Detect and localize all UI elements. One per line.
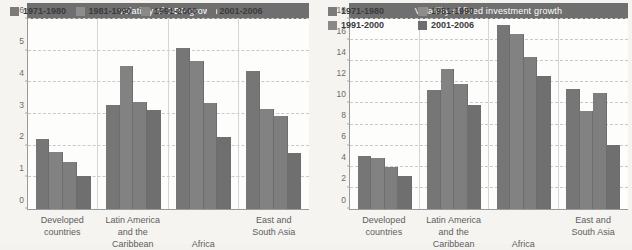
legend-swatch-icon — [418, 7, 427, 16]
bar[interactable] — [398, 176, 412, 209]
bar[interactable] — [537, 76, 551, 209]
legend-label: 1971-1980 — [23, 6, 66, 16]
legend-item-2001-2006[interactable]: 2001-2006 — [207, 6, 273, 16]
bar[interactable] — [176, 48, 190, 210]
y-axis-tick-label: 6 — [341, 131, 346, 141]
legend-swatch-icon — [418, 21, 427, 30]
legend-swatch-icon — [328, 21, 337, 30]
bar-group-bars — [246, 19, 301, 209]
x-axis-category-label: Africa — [489, 226, 559, 250]
bar[interactable] — [566, 89, 580, 209]
x-axis-category-label: Developedcountries — [27, 214, 98, 250]
bar[interactable] — [497, 25, 511, 209]
bar-group — [169, 19, 239, 209]
x-axis-category-line2: countries — [349, 226, 419, 238]
bar-group-bars — [106, 19, 161, 209]
bar[interactable] — [120, 66, 134, 209]
x-axis-category-line1: East and — [256, 215, 292, 225]
x-axis-category-line2: countries — [27, 226, 98, 238]
legend-item-1991-2000[interactable]: 1991-2000 — [141, 6, 207, 16]
x-axis-category-label: East andSouth Asia — [239, 214, 310, 250]
chart-panel-fixed-investment-growth: Volatility of fixed investment growth 19… — [316, 0, 632, 244]
y-axis-tick-label: 10 — [337, 89, 346, 99]
legend-swatch-icon — [328, 7, 337, 16]
bar[interactable] — [441, 69, 455, 209]
legend-label: 1991-2000 — [341, 20, 384, 30]
bar[interactable] — [524, 57, 538, 209]
y-axis-tick-label: 0 — [19, 195, 24, 205]
x-axis-category-line1: East and — [575, 215, 611, 225]
legend-swatch-icon — [76, 7, 85, 16]
x-axis-labels-fixed-investment-growth: DevelopedcountriesLatin Americaand the C… — [349, 214, 628, 250]
legend-item-1971-1980[interactable]: 1971-1980 — [328, 6, 418, 16]
bar[interactable] — [427, 90, 441, 209]
y-axis-tick-label: 2 — [19, 131, 24, 141]
bar-groups-gdp-growth — [28, 19, 309, 209]
bar[interactable] — [510, 34, 524, 209]
y-axis-tick-label: 3 — [19, 100, 24, 110]
bar-group — [489, 19, 559, 209]
x-axis-category-line1: Developed — [41, 215, 84, 225]
bar[interactable] — [371, 158, 385, 209]
bar-group — [239, 19, 309, 209]
bar[interactable] — [385, 167, 399, 209]
legend-item-1981-1990[interactable]: 1981-1990 — [418, 6, 508, 16]
x-axis-category-line2: and the Caribbean — [98, 226, 169, 250]
legend-label: 1991-2000 — [154, 6, 197, 16]
bar-group-bars — [36, 19, 91, 209]
bar[interactable] — [454, 84, 468, 209]
x-axis-category-line1: Latin America — [105, 215, 160, 225]
plot-area-gdp-growth: 0123456 — [27, 19, 309, 210]
bar-group — [28, 19, 98, 209]
bar-group — [98, 19, 168, 209]
bar[interactable] — [288, 153, 302, 209]
y-axis-tick-label: 5 — [19, 36, 24, 46]
bar[interactable] — [133, 102, 147, 209]
bar[interactable] — [106, 105, 120, 209]
bar[interactable] — [468, 105, 482, 209]
bar-group-bars — [497, 19, 551, 209]
bar-group-bars — [566, 19, 620, 209]
legend-label: 1971-1980 — [341, 6, 384, 16]
y-axis-tick-label: 8 — [341, 110, 346, 120]
legend-item-1991-2000[interactable]: 1991-2000 — [328, 20, 418, 30]
bar[interactable] — [217, 137, 231, 209]
legend-swatch-icon — [207, 7, 216, 16]
legend-item-1971-1980[interactable]: 1971-1980 — [10, 6, 76, 16]
y-axis-tick-label: 0 — [341, 195, 346, 205]
x-axis-category-label: East andSouth Asia — [558, 214, 628, 250]
y-axis-tick-label: 12 — [337, 68, 346, 78]
plot-area-fixed-investment-growth: 024681012141618 — [349, 19, 628, 210]
legend-swatch-icon — [141, 7, 150, 16]
legend-item-2001-2006[interactable]: 2001-2006 — [418, 20, 508, 30]
x-axis-labels-gdp-growth: DevelopedcountriesLatin Americaand the C… — [27, 214, 309, 250]
legend-label: 1981-1990 — [431, 6, 474, 16]
y-axis-tick-label: 14 — [337, 47, 346, 57]
bar-group — [420, 19, 490, 209]
bar[interactable] — [63, 162, 77, 210]
bar[interactable] — [190, 61, 204, 209]
legend-label: 2001-2006 — [220, 6, 263, 16]
bar[interactable] — [607, 145, 621, 209]
bar[interactable] — [49, 152, 63, 209]
bar[interactable] — [274, 116, 288, 209]
bar-groups-fixed-investment-growth — [350, 19, 628, 209]
x-axis-category-label: Latin Americaand the Caribbean — [98, 214, 169, 250]
bar[interactable] — [260, 109, 274, 209]
legend-label: 2001-2006 — [431, 20, 474, 30]
x-axis-category-line2: South Asia — [558, 226, 628, 238]
bar-group-bars — [427, 19, 481, 209]
bar[interactable] — [77, 176, 91, 209]
x-axis-category-line1: Developed — [362, 215, 405, 225]
x-axis-category-label: Africa — [168, 226, 239, 250]
bar[interactable] — [36, 139, 50, 209]
bar[interactable] — [593, 93, 607, 209]
bar[interactable] — [204, 103, 218, 209]
legend-item-1981-1990[interactable]: 1981-1990 — [76, 6, 142, 16]
bar[interactable] — [358, 156, 372, 209]
bar[interactable] — [147, 110, 161, 209]
bar-group — [350, 19, 420, 209]
legend-label: 1981-1990 — [89, 6, 132, 16]
bar[interactable] — [246, 71, 260, 209]
bar[interactable] — [580, 111, 594, 209]
